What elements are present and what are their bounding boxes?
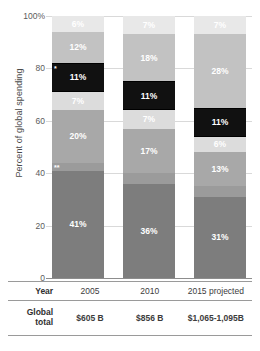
- bar-segment-label: 7%: [143, 21, 155, 30]
- bar-segment-label: 17%: [140, 147, 157, 156]
- bar-segment-label: 7%: [214, 21, 226, 30]
- bar-segment[interactable]: 7%: [123, 16, 175, 34]
- y-tick-label-20: 20: [1, 221, 45, 231]
- bar-group: 6%12%11%*7%20%3%**41%7%18%11%7%17%4%36%7…: [46, 16, 252, 278]
- bar-segment[interactable]: 3%**: [52, 163, 104, 171]
- bar-segment-label: 13%: [211, 165, 228, 174]
- cell-total-2010: $856 B: [120, 301, 180, 336]
- bar-segment-label: 11%: [141, 92, 158, 101]
- cell-year-2010: 2010: [120, 282, 180, 301]
- bar-segment-label: 20%: [69, 132, 86, 141]
- bar-segment[interactable]: 17%: [123, 129, 175, 174]
- table-row-global-total: Global total $605 B $856 B $1,065-1,095B: [8, 301, 252, 336]
- bar-segment[interactable]: 6%: [194, 137, 246, 153]
- bar-segment[interactable]: 11%: [123, 81, 175, 110]
- y-tick-label-60: 60: [1, 116, 45, 126]
- bar-segment[interactable]: 12%: [52, 32, 104, 63]
- row-header-line2: total: [35, 317, 53, 327]
- bar-2015-projected[interactable]: 7%28%11%6%13%4%31%: [194, 16, 246, 278]
- bar-segment[interactable]: 7%: [194, 16, 246, 34]
- stacked-bar-chart: Percent of global spending 100%806040200…: [0, 0, 260, 351]
- table-row-year: Year 2005 2010 2015 projected: [8, 282, 252, 301]
- bar-segment-label: 7%: [143, 115, 155, 124]
- bar-segment[interactable]: 4%: [194, 186, 246, 196]
- bar-2005[interactable]: 6%12%11%*7%20%3%**41%: [52, 16, 104, 278]
- bar-segment-label: 6%: [72, 20, 84, 29]
- bar-segment[interactable]: 36%: [123, 184, 175, 278]
- y-tick-label-80: 80: [1, 63, 45, 73]
- data-table: Year 2005 2010 2015 projected Global tot…: [8, 281, 252, 336]
- bar-segment[interactable]: 7%: [52, 92, 104, 110]
- bar-segment-label: 11%: [212, 118, 229, 127]
- bar-segment[interactable]: 28%: [194, 34, 246, 107]
- gridline-0: [46, 278, 252, 279]
- bar-segment-label: 7%: [72, 97, 84, 106]
- bar-segment-label: 12%: [69, 43, 86, 52]
- row-header-global-total: Global total: [8, 301, 60, 336]
- bar-segment[interactable]: 7%: [123, 110, 175, 128]
- y-tick-label-100: 100%: [1, 11, 45, 21]
- bar-segment-label: 41%: [69, 220, 86, 229]
- bar-segment-label: 36%: [140, 227, 157, 236]
- bar-segment[interactable]: 31%: [194, 197, 246, 278]
- cell-year-2005: 2005: [60, 282, 120, 301]
- bar-segment[interactable]: 41%: [52, 171, 104, 278]
- footnote-marker-icon: *: [54, 65, 57, 72]
- cell-year-2015: 2015 projected: [180, 282, 252, 301]
- bar-segment[interactable]: 20%: [52, 110, 104, 162]
- bar-2010[interactable]: 7%18%11%7%17%4%36%: [123, 16, 175, 278]
- bar-segment[interactable]: 4%: [123, 173, 175, 183]
- row-header-year: Year: [8, 282, 60, 301]
- bar-segment-label: 31%: [211, 233, 228, 242]
- bar-segment-label: 18%: [140, 54, 157, 63]
- bar-segment[interactable]: 11%*: [52, 63, 104, 92]
- footnote-marker-icon: **: [54, 164, 59, 171]
- bar-segment[interactable]: 18%: [123, 34, 175, 81]
- row-header-line1: Global: [27, 307, 53, 317]
- bar-segment[interactable]: 13%: [194, 152, 246, 186]
- bar-segment-label: 28%: [211, 67, 228, 76]
- bar-segment-label: 11%: [70, 73, 87, 82]
- plot-area: Percent of global spending 100%806040200…: [0, 0, 260, 280]
- cell-total-2015: $1,065-1,095B: [180, 301, 252, 336]
- bar-segment[interactable]: 6%: [52, 16, 104, 32]
- y-tick-label-40: 40: [1, 168, 45, 178]
- cell-total-2005: $605 B: [60, 301, 120, 336]
- bar-segment[interactable]: 11%: [194, 108, 246, 137]
- bar-segment-label: 6%: [214, 140, 226, 149]
